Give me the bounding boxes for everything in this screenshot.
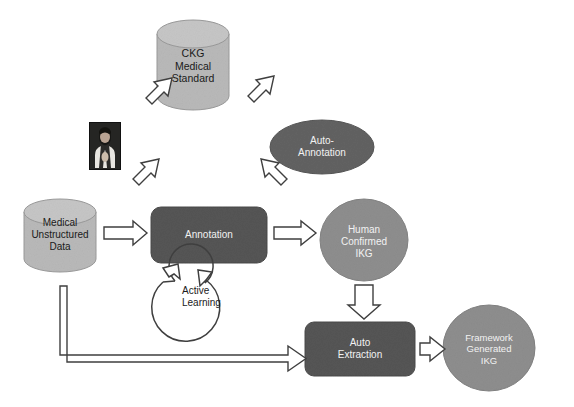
node-medical-unstructured-data[interactable] (24, 199, 96, 272)
arrow-doctor-to-annotation (133, 159, 159, 185)
doctor-photo-icon (89, 122, 121, 170)
node-auto-annotation[interactable] (270, 120, 374, 174)
arrow-human-ikg-to-auto-extraction (348, 285, 380, 319)
node-framework-generated-ikg[interactable] (443, 305, 535, 391)
node-annotation[interactable] (151, 207, 267, 263)
node-human-confirmed-ikg[interactable] (320, 199, 408, 281)
arrow-data-to-annotation (104, 221, 147, 245)
diagram-shapes-layer (0, 0, 574, 407)
node-auto-extraction[interactable] (305, 322, 415, 376)
diagram-canvas: CKG Medical Standard Auto- Annotation Me… (0, 0, 574, 407)
arrow-ckg-to-auto-annotation (248, 76, 274, 102)
arrow-auto-extraction-to-framework-ikg (420, 337, 445, 361)
arrow-data-to-auto-extraction (60, 286, 306, 371)
arrow-annotation-to-human-ikg (274, 221, 316, 245)
